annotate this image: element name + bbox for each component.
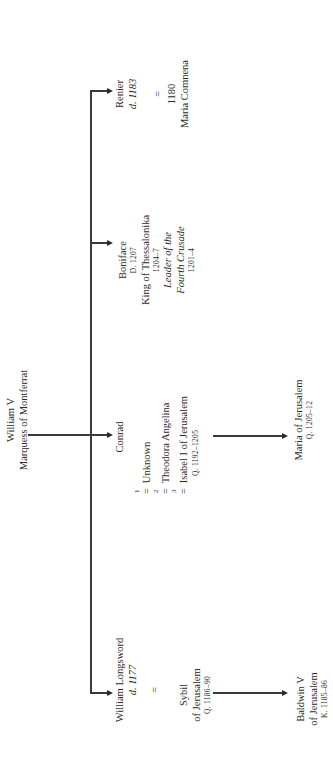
person-renier: Renier d. 1183	[113, 79, 139, 110]
role-line-2: Fourth Crusade	[174, 215, 187, 305]
root-person: William V Marquess of Montferrat	[4, 370, 30, 470]
title-years: 1204–7	[151, 215, 160, 305]
marriage-symbol: 3=	[178, 488, 191, 494]
person-name: William Longsword	[113, 638, 126, 722]
marriage-renier: = 1180 Maria Comnena	[152, 60, 191, 128]
marriage-3: 3= Isabel I of Jerusalem	[177, 396, 191, 494]
person-dates: d. 1183	[126, 79, 139, 110]
equals-sign: =	[141, 488, 152, 494]
person-boniface: Boniface D. 1207 King of Thessalonika 12…	[116, 215, 197, 305]
trunk-line	[90, 90, 92, 693]
equals-sign: =	[149, 687, 162, 693]
root-title: Marquess of Montferrat	[17, 370, 30, 470]
arrow-icon-boniface	[107, 240, 113, 246]
person-dates: K. 1185–86	[320, 672, 329, 725]
marriage-number: 1	[133, 490, 142, 494]
spouse-name: Theodora Angelina	[160, 403, 171, 484]
descent-line-maria	[213, 435, 283, 437]
person-dates: d. 1177	[126, 638, 139, 722]
arrow-icon-baldwin	[282, 690, 288, 696]
role-years: 1201–4	[187, 215, 196, 305]
marriage-1: 1= Unknown	[140, 396, 154, 494]
root-connector-line	[28, 434, 108, 436]
person-name: Sybil	[177, 668, 190, 721]
person-name: Maria of Jerusalem	[292, 379, 305, 460]
person-dates: Q. 1186–90	[203, 668, 212, 721]
person-name-line-2: of Jerusalem	[190, 668, 203, 721]
branch-line-renier	[90, 90, 108, 92]
person-name: Baldwin V	[294, 672, 307, 725]
person-name: Renier	[113, 79, 126, 110]
person-sybil: Sybil of Jerusalem Q. 1186–90	[177, 668, 213, 721]
person-maria-of-jerusalem: Maria of Jerusalem Q. 1205–12	[292, 379, 315, 460]
branch-line-boniface	[90, 242, 108, 244]
person-dates: D. 1207	[129, 215, 138, 305]
arrow-icon-conrad	[107, 432, 113, 438]
marriage-2: 2= Theodora Angelina	[159, 396, 173, 494]
spouse-name: Unknown	[141, 442, 152, 483]
marriage-number: 2	[152, 490, 161, 494]
person-dates: Q. 1205–12	[305, 379, 314, 460]
person-baldwin-v: Baldwin V of Jerusalem K. 1185–86	[294, 672, 330, 725]
equals-sign: =	[160, 488, 171, 494]
person-name: Conrad	[113, 422, 126, 453]
spouse-dates: Q. 1192–1205	[191, 396, 200, 494]
arrow-icon-maria	[282, 433, 288, 439]
equals-sign: =	[178, 488, 189, 494]
marriage-symbol-william-longsword: =	[149, 687, 162, 693]
person-name: Boniface	[116, 215, 129, 305]
person-conrad: Conrad	[113, 422, 126, 453]
person-name-line-2: of Jerusalem	[307, 672, 320, 725]
marriage-number: 3	[170, 490, 179, 494]
marriages-conrad: 1= Unknown 2= Theodora Angelina 3= Isabe…	[140, 396, 200, 494]
person-title: King of Thessalonika	[138, 215, 151, 305]
root-name: William V	[4, 370, 17, 470]
spouse-name: Maria Comnena	[177, 60, 190, 128]
spouse-name: Isabel I of Jerusalem	[178, 396, 189, 483]
descent-line-baldwin	[213, 692, 283, 694]
branch-line-william-longsword	[90, 692, 108, 694]
marriage-year: 1180	[164, 60, 177, 128]
marriage-symbol: =	[152, 60, 165, 128]
person-william-longsword: William Longsword d. 1177	[113, 638, 139, 722]
role-line-1: Leader of the	[161, 215, 174, 305]
